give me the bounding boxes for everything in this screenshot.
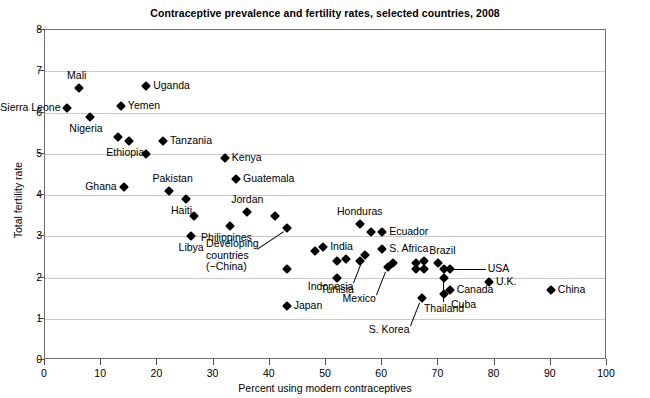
point-label: Guatemala — [243, 173, 294, 185]
data-point — [119, 182, 129, 192]
plot-area: Sierra LeoneMaliNigeriaEthiopiaYemenUgan… — [44, 29, 606, 359]
point-label: Brazil — [429, 245, 455, 257]
data-point — [124, 136, 134, 146]
gridline-y-7 — [45, 71, 605, 72]
x-axis-title: Percent using modern contraceptives — [0, 382, 650, 394]
x-tick-mark-20 — [156, 359, 157, 365]
point-label: Japan — [294, 301, 323, 313]
x-tick-label-20: 20 — [136, 367, 176, 379]
point-label: Mali — [67, 70, 86, 82]
point-label: Mexico — [343, 293, 376, 305]
point-label: Jordan — [231, 194, 263, 206]
data-point — [546, 285, 556, 295]
label-leader-line — [376, 272, 386, 295]
point-label: Sierra Leone — [0, 103, 60, 115]
point-label: USA — [488, 264, 510, 276]
x-tick-mark-100 — [606, 359, 607, 365]
x-tick-label-0: 0 — [24, 367, 64, 379]
point-label: Nigeria — [69, 123, 102, 135]
data-point — [116, 101, 126, 111]
point-label: Developingcountries(−China) — [206, 238, 259, 273]
point-label: Yemen — [128, 101, 160, 113]
point-label: Ecuador — [389, 226, 428, 238]
x-tick-mark-40 — [269, 359, 270, 365]
point-label: Ethiopia — [106, 148, 144, 160]
point-label: Ghana — [85, 181, 117, 193]
gridline-y-4 — [45, 195, 605, 196]
label-leader-line — [454, 269, 486, 270]
x-tick-label-10: 10 — [80, 367, 120, 379]
gridline-y-2 — [45, 278, 605, 279]
x-tick-mark-50 — [325, 359, 326, 365]
label-leader-line — [256, 231, 284, 250]
gridline-y-1 — [45, 319, 605, 320]
data-point — [355, 219, 365, 229]
x-tick-label-70: 70 — [417, 367, 457, 379]
data-point — [158, 136, 168, 146]
x-tick-label-100: 100 — [586, 367, 626, 379]
x-tick-label-40: 40 — [249, 367, 289, 379]
gridline-y-3 — [45, 236, 605, 237]
x-tick-label-80: 80 — [474, 367, 514, 379]
scatter-chart: Contraceptive prevalence and fertility r… — [0, 0, 650, 398]
x-tick-mark-90 — [550, 359, 551, 365]
x-tick-mark-10 — [100, 359, 101, 365]
data-point — [270, 211, 280, 221]
point-label: China — [558, 284, 585, 296]
x-tick-mark-0 — [44, 359, 45, 365]
point-label: S. Korea — [369, 324, 410, 336]
data-point — [377, 244, 387, 254]
data-point — [141, 81, 151, 91]
x-tick-label-90: 90 — [530, 367, 570, 379]
x-tick-mark-70 — [437, 359, 438, 365]
data-point — [419, 264, 429, 274]
gridline-y-6 — [45, 113, 605, 114]
x-tick-label-50: 50 — [305, 367, 345, 379]
point-label: Indonesia — [308, 281, 354, 293]
data-point — [282, 264, 292, 274]
data-point — [186, 231, 196, 241]
point-label: Honduras — [337, 206, 383, 218]
point-label: Tanzania — [170, 136, 212, 148]
data-point — [341, 254, 351, 264]
data-point — [113, 132, 123, 142]
data-point — [226, 221, 236, 231]
x-tick-label-60: 60 — [361, 367, 401, 379]
data-point — [439, 273, 449, 283]
data-point — [231, 174, 241, 184]
chart-title: Contraceptive prevalence and fertility r… — [0, 7, 650, 19]
point-label: S. Africa — [389, 243, 428, 255]
x-tick-mark-60 — [381, 359, 382, 365]
point-label: Uganda — [153, 80, 190, 92]
x-tick-label-30: 30 — [193, 367, 233, 379]
point-label: Kenya — [232, 152, 262, 164]
x-tick-mark-80 — [494, 359, 495, 365]
point-label: India — [330, 241, 353, 253]
data-point — [282, 301, 292, 311]
data-point — [242, 207, 252, 217]
point-label: Libya — [179, 243, 204, 255]
label-leader-line — [410, 303, 420, 326]
point-label: U.K. — [496, 276, 516, 288]
point-label: Pakistan — [152, 173, 192, 185]
point-label: Cuba — [451, 299, 476, 311]
x-tick-mark-30 — [213, 359, 214, 365]
data-point — [74, 83, 84, 93]
